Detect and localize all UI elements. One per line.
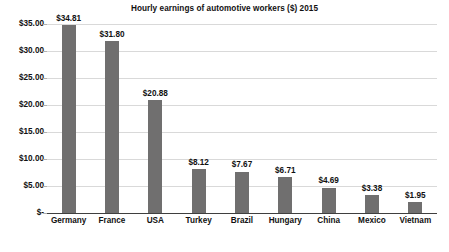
bar[interactable] [62,25,76,213]
bar[interactable] [408,202,422,213]
bar-slot: $31.80 [90,24,133,213]
bar-value-label: $34.81 [56,15,81,23]
bar-slot: $4.69 [307,24,350,213]
x-axis-category-label: USA [134,217,177,225]
x-axis-category-label: Turkey [177,217,220,225]
bar[interactable] [365,195,379,213]
x-axis-category-label: Germany [47,217,90,225]
bar-value-label: $1.95 [405,192,426,200]
plot-area: $34.81$31.80$20.88$8.12$7.67$6.71$4.69$3… [47,24,437,213]
bar-slot: $7.67 [220,24,263,213]
x-axis-category-label: Mexico [350,217,393,225]
bar-slot: $34.81 [47,24,90,213]
bar[interactable] [322,188,336,213]
bar[interactable] [105,41,119,213]
bar-chart: Hourly earnings of automotive workers ($… [0,0,449,252]
x-axis-line [47,213,437,214]
y-axis-tick-label: $35.00 [0,20,44,28]
bar-value-label: $8.12 [188,159,209,167]
y-axis-tick-label: $- [0,209,44,217]
y-axis-tick-label: $15.00 [0,128,44,136]
y-axis-tick-label: $10.00 [0,155,44,163]
x-axis-category-label: France [90,217,133,225]
bar-slot: $8.12 [177,24,220,213]
bar[interactable] [278,177,292,213]
chart-title: Hourly earnings of automotive workers ($… [0,4,449,13]
bar-slot: $20.88 [134,24,177,213]
x-axis-category-label: China [307,217,350,225]
y-axis: $-$5.00$10.00$15.00$20.00$25.00$30.00$35… [0,0,44,252]
x-axis-category-label: Brazil [220,217,263,225]
y-axis-tick-label: $20.00 [0,101,44,109]
y-axis-tick-label: $30.00 [0,47,44,55]
bar-value-label: $4.69 [318,177,339,185]
bar-value-label: $31.80 [99,31,124,39]
x-axis-category-label: Vietnam [394,217,437,225]
x-axis-category-label: Hungary [264,217,307,225]
bar-value-label: $7.67 [232,161,253,169]
y-axis-tick-label: $25.00 [0,74,44,82]
y-axis-tick-label: $5.00 [0,182,44,190]
bar[interactable] [235,172,249,213]
bar-slot: $1.95 [394,24,437,213]
bar-value-label: $6.71 [275,167,296,175]
bar-value-label: $3.38 [362,185,383,193]
bar-slot: $6.71 [264,24,307,213]
bar[interactable] [148,100,162,213]
bar-value-label: $20.88 [143,90,168,98]
bar[interactable] [192,169,206,213]
bar-slot: $3.38 [350,24,393,213]
